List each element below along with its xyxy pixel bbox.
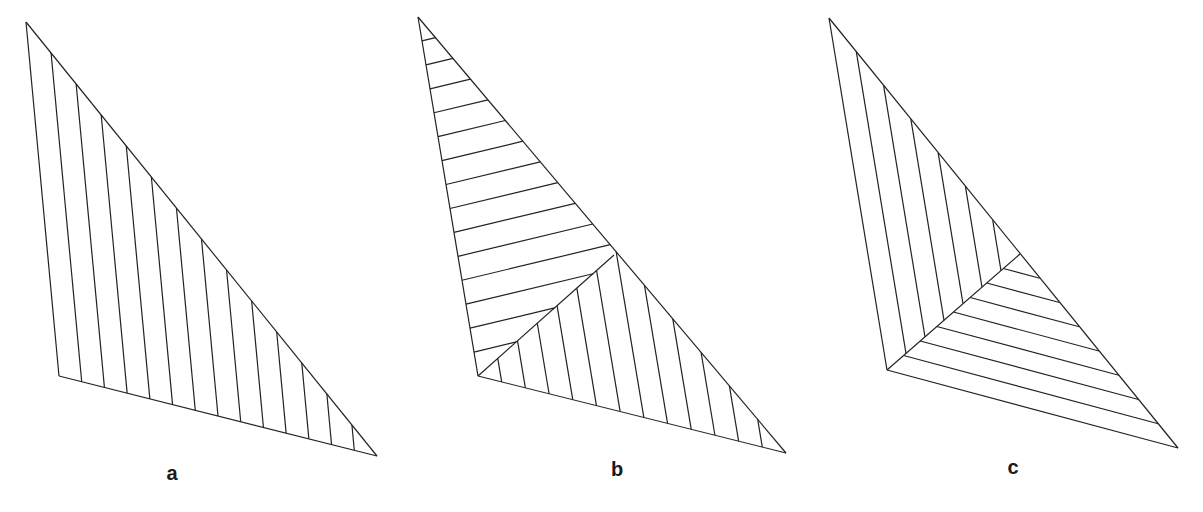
hatch-line [352,425,354,450]
hatch-line-left-family [856,52,906,354]
hatch-line-upper [458,224,593,256]
hatch-line-lower [577,288,597,406]
hatch-line [101,115,127,393]
hatch-line-lower [518,341,526,388]
hatch-line [151,177,172,405]
edge-left [829,18,887,370]
edge-bottom [887,370,1178,448]
panel-label-b: b [611,458,623,481]
hatch-line-lower [537,323,549,394]
hatch-spine [478,255,614,376]
hatch-line-lower [498,358,502,382]
hatch-line [302,363,309,439]
edge-bottom [478,376,786,453]
hatch-line-upper [434,100,488,113]
hatch-line-upper [454,203,575,232]
hatch-line-upper [438,121,505,137]
hatch-line-upper [430,79,470,89]
hatch-line-lower [597,270,621,411]
triangle-c [829,18,1178,448]
hatch-line [51,53,82,382]
hatch-line [277,332,286,433]
hatch-line [176,208,195,410]
hatch-line [327,394,332,445]
edge-hypotenuse [418,17,786,453]
panel-label-a: a [166,462,177,485]
hatch-line-bottom-family [987,283,1060,303]
hatch-line-lower [616,252,644,418]
hatch-line [202,239,219,416]
hatch-line-upper [442,141,523,160]
triangle-b [418,17,786,453]
hatch-line-lower [701,352,715,435]
hatch-line-bottom-family [920,341,1138,400]
hatch-line-upper [426,58,453,64]
hatch-line-upper [446,162,540,185]
hatch-line-left-family [884,85,925,336]
hatch-line-lower [644,285,667,423]
hatch-line [76,84,104,387]
edge-left [418,17,478,376]
hatch-line-bottom-family [970,298,1079,327]
hatch-line-bottom-family [1003,269,1039,279]
hatch-line-bottom-family [954,312,1100,351]
hatch-line-bottom-family [937,327,1119,376]
hatch-line-lower [673,319,691,429]
hatch-line-upper [422,38,435,41]
hatch-line-lower [729,386,738,441]
edge-left [26,22,59,376]
triangle-a [26,22,377,456]
hatch-line [227,270,241,422]
panel-label-c: c [1007,456,1018,479]
hatch-line [252,301,264,427]
hatched-triangles-diagram [0,0,1203,512]
hatch-line-left-family [965,187,982,288]
hatch-line-left-family [911,119,944,320]
edge-hypotenuse [829,18,1178,448]
hatch-line-lower [557,306,573,400]
hatch-line-upper [466,274,593,304]
hatch-line-left-family [938,153,963,304]
hatch-line-upper [470,308,555,328]
hatch-line [126,146,150,399]
hatch-line-upper [450,183,558,209]
hatch-line-bottom-family [904,356,1159,424]
